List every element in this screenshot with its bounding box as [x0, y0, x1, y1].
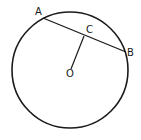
label-o: O: [66, 68, 74, 79]
label-b: B: [127, 47, 134, 58]
label-a: A: [35, 6, 42, 17]
label-c: C: [86, 24, 93, 35]
segment-oc: [71, 36, 84, 69]
circle-chord-diagram: A B C O: [0, 0, 141, 140]
chord-ab: [43, 18, 126, 52]
